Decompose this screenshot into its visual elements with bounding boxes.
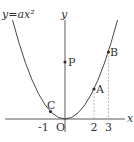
tick-minus-1: -1	[38, 121, 49, 134]
parabola-diagram: y=ax² y x O -1 2 3 C A B P	[0, 0, 134, 142]
point-a-label: A	[95, 83, 105, 96]
point-p-label: P	[68, 56, 76, 69]
point-c-label: C	[47, 99, 55, 112]
x-axis-label: x	[127, 112, 134, 125]
equation-label: y=ax²	[1, 8, 35, 21]
point-p	[63, 60, 66, 63]
tick-2: 2	[91, 121, 98, 134]
point-b-label: B	[110, 46, 118, 59]
y-axis-label: y	[60, 8, 68, 21]
origin-label: O	[56, 121, 65, 134]
tick-3: 3	[105, 121, 112, 134]
